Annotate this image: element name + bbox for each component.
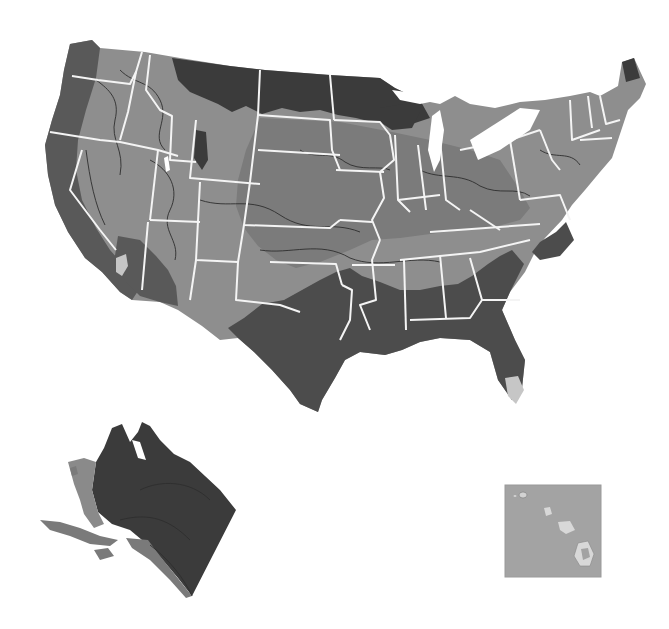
hawaii-inset bbox=[505, 485, 601, 577]
us-thematic-map bbox=[0, 0, 669, 629]
alaska-inset bbox=[40, 422, 236, 598]
contiguous-us bbox=[45, 40, 646, 412]
alaska-island-kodiak bbox=[94, 548, 114, 560]
hawaii-island-kauai bbox=[519, 492, 527, 498]
alaska-peninsula bbox=[40, 520, 118, 546]
hawaii-island-niihau bbox=[514, 495, 517, 497]
